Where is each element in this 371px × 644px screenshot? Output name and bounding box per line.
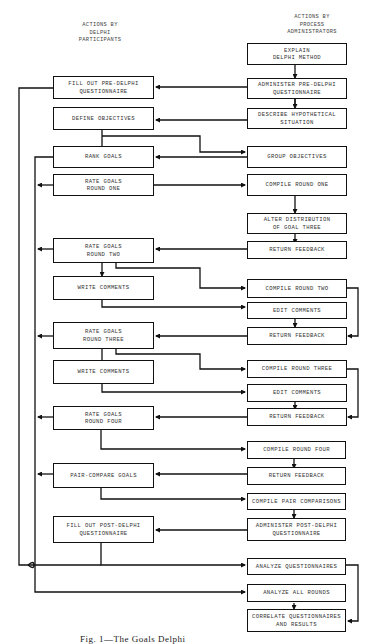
box-fill-out-pre-delphi: FILL OUT PRE-DELPHI QUESTIONNAIRE [53, 76, 154, 99]
box-fill-out-post-delphi: FILL OUT POST-DELPHI QUESTIONNAIRE [53, 516, 154, 543]
box-pair-compare-goals: PAIR-COMPARE GOALS [53, 463, 154, 488]
box-compile-round-four: COMPILE ROUND FOUR [247, 441, 346, 459]
box-administer-post-delphi: ADMINISTER POST-DELPHI QUESTIONNAIRE [247, 518, 346, 541]
box-rank-goals: RANK GOALS [53, 146, 154, 168]
box-edit-comments-1: EDIT COMMENTS [247, 302, 347, 319]
box-compile-pair-comparisons: COMPILE PAIR COMPARISONS [247, 493, 346, 510]
box-administer-pre-delphi: ADMINISTER PRE-DELPHI QUESTIONNAIRE [247, 78, 347, 99]
box-rate-goals-round-two: RATE GOALS ROUND TWO [53, 238, 154, 263]
box-compile-round-three: COMPILE ROUND THREE [247, 360, 347, 378]
box-return-feedback-2: RETURN FEEDBACK [247, 327, 347, 345]
box-edit-comments-2: EDIT COMMENTS [247, 384, 347, 402]
box-explain-delphi-method: EXPLAIN DELPHI METHOD [247, 43, 347, 65]
box-write-comments-2: WRITE COMMENTS [53, 360, 154, 384]
box-compile-round-one: COMPILE ROUND ONE [247, 174, 347, 196]
box-rate-goals-round-three: RATE GOALS ROUND THREE [53, 322, 154, 349]
box-describe-hypothetical: DESCRIBE HYPOTHETICAL SITUATION [247, 108, 347, 129]
box-rate-goals-round-one: RATE GOALS ROUND ONE [53, 174, 154, 196]
box-analyze-all-rounds: ANALYZE ALL ROUNDS [247, 584, 346, 602]
box-return-feedback-3: RETURN FEEDBACK [247, 408, 347, 426]
figure-caption: Fig. 1—The Goals Delphi [80, 634, 186, 644]
box-write-comments-1: WRITE COMMENTS [53, 276, 154, 300]
box-alter-distribution: ALTER DISTRIBUTION OF GOAL THREE [247, 213, 347, 234]
box-analyze-questionnaires: ANALYZE QUESTIONNAIRES [247, 558, 346, 575]
box-group-objectives: GROUP OBJECTIVES [247, 146, 347, 168]
box-return-feedback-4: RETURN FEEDBACK [247, 467, 346, 485]
box-rate-goals-round-four: RATE GOALS ROUND FOUR [53, 406, 154, 430]
box-define-objectives: DEFINE OBJECTIVES [53, 107, 154, 130]
box-compile-round-two: COMPILE ROUND TWO [247, 279, 347, 298]
box-return-feedback-1: RETURN FEEDBACK [247, 241, 347, 259]
box-correlate-questionnaires: CORRELATE QUESTIONNAIRES AND RESULTS [247, 609, 346, 632]
